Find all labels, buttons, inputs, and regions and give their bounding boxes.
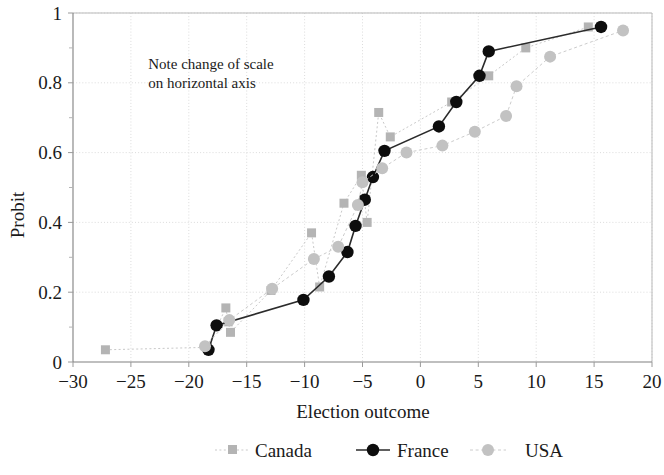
legend-marker-france	[367, 444, 379, 456]
x-tick-label: 5	[474, 371, 484, 392]
scale-note: on horizontal axis	[148, 75, 256, 91]
x-tick-label: 0	[416, 371, 426, 392]
data-point	[352, 199, 364, 211]
x-tick-label: 15	[585, 371, 604, 392]
x-tick-label: 10	[527, 371, 546, 392]
data-point	[500, 110, 512, 122]
legend-label-canada: Canada	[255, 440, 313, 461]
x-axis-title: Election outcome	[296, 401, 429, 422]
x-tick-label: −10	[290, 371, 320, 392]
data-point	[367, 171, 379, 183]
chart-legend: CanadaFranceUSA	[215, 440, 563, 461]
y-tick-label: 1	[53, 3, 63, 24]
data-point	[266, 283, 278, 295]
data-point	[378, 145, 390, 157]
series-usa	[199, 24, 629, 352]
probit-election-chart: −30−25−20−15−10−50510152000.20.40.60.81 …	[0, 0, 664, 475]
legend-marker-canada	[228, 445, 237, 454]
data-point	[473, 70, 485, 82]
y-tick-label: 0.8	[38, 72, 62, 93]
data-point	[308, 253, 320, 265]
data-point	[376, 162, 388, 174]
data-point	[226, 328, 235, 337]
data-point	[307, 228, 316, 237]
data-point	[199, 340, 211, 352]
data-point	[349, 220, 361, 232]
legend-marker-usa	[482, 444, 494, 456]
data-point	[357, 176, 369, 188]
y-tick-label: 0.4	[38, 212, 62, 233]
data-point	[595, 21, 607, 33]
data-point	[401, 147, 413, 159]
data-point	[332, 241, 344, 253]
data-point	[483, 45, 495, 57]
data-point	[297, 294, 309, 306]
x-tick-label: −15	[232, 371, 262, 392]
legend-label-usa: USA	[525, 440, 563, 461]
data-point	[323, 270, 335, 282]
y-tick-label: 0.6	[38, 142, 62, 163]
data-point	[374, 108, 383, 117]
data-point	[339, 199, 348, 208]
chart-canvas: −30−25−20−15−10−50510152000.20.40.60.81 …	[0, 0, 664, 475]
series-canada	[101, 22, 593, 354]
data-point	[469, 126, 481, 138]
x-tick-label: −20	[174, 371, 204, 392]
legend-item-usa[interactable]: USA	[470, 440, 563, 461]
data-point	[223, 314, 235, 326]
legend-item-canada[interactable]: Canada	[215, 440, 313, 461]
legend-item-france[interactable]: France	[356, 440, 449, 461]
data-point	[363, 218, 372, 227]
y-tick-label: 0	[53, 352, 63, 373]
data-point	[436, 140, 448, 152]
chart-annotations: Note change of scaleon horizontal axis	[148, 56, 274, 91]
data-point	[386, 132, 395, 141]
data-point	[221, 303, 230, 312]
y-tick-label: 0.2	[38, 282, 62, 303]
data-point	[433, 120, 445, 132]
data-point	[511, 80, 523, 92]
x-tick-label: −5	[352, 371, 372, 392]
axis-tick-labels: −30−25−20−15−10−50510152000.20.40.60.81	[38, 3, 661, 393]
scale-note: Note change of scale	[148, 56, 274, 72]
legend-label-france: France	[397, 440, 449, 461]
x-tick-label: 20	[643, 371, 662, 392]
data-point	[544, 51, 556, 63]
data-point	[617, 24, 629, 36]
x-tick-label: −25	[116, 371, 146, 392]
data-point	[101, 345, 110, 354]
data-point	[450, 96, 462, 108]
y-axis-title: Probit	[7, 191, 28, 238]
x-tick-label: −30	[58, 371, 88, 392]
